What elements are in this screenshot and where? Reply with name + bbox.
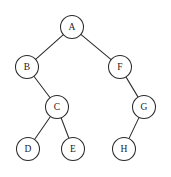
- node-layer: ABFCGDEH: [16, 16, 156, 161]
- tree-node-g: G: [133, 96, 156, 119]
- tree-node-h: H: [113, 138, 136, 161]
- tree-node-d: D: [17, 138, 40, 161]
- tree-node-label-a: A: [68, 22, 75, 32]
- tree-node-label-b: B: [24, 62, 31, 72]
- tree-node-label-g: G: [140, 102, 147, 112]
- tree-edge-a-f: [81, 34, 111, 59]
- tree-node-label-h: H: [120, 144, 127, 154]
- tree-edge-a-b: [36, 35, 64, 60]
- tree-canvas: ABFCGDEH: [0, 0, 171, 177]
- tree-edge-c-e: [61, 118, 69, 139]
- tree-edge-b-c: [34, 76, 50, 98]
- tree-node-a: A: [61, 16, 84, 39]
- tree-node-e: E: [62, 138, 85, 161]
- tree-node-label-c: C: [54, 102, 61, 112]
- tree-node-f: F: [109, 56, 132, 79]
- tree-node-b: B: [16, 56, 39, 79]
- tree-edge-f-g: [126, 77, 138, 97]
- tree-node-c: C: [46, 96, 69, 119]
- tree-edge-c-d: [35, 116, 51, 139]
- tree-node-label-e: E: [70, 144, 76, 154]
- binary-tree-diagram: ABFCGDEH: [0, 0, 171, 177]
- tree-edge-g-h: [129, 117, 139, 138]
- tree-node-label-f: F: [117, 62, 122, 72]
- edge-layer: [34, 34, 139, 139]
- tree-node-label-d: D: [24, 144, 31, 154]
